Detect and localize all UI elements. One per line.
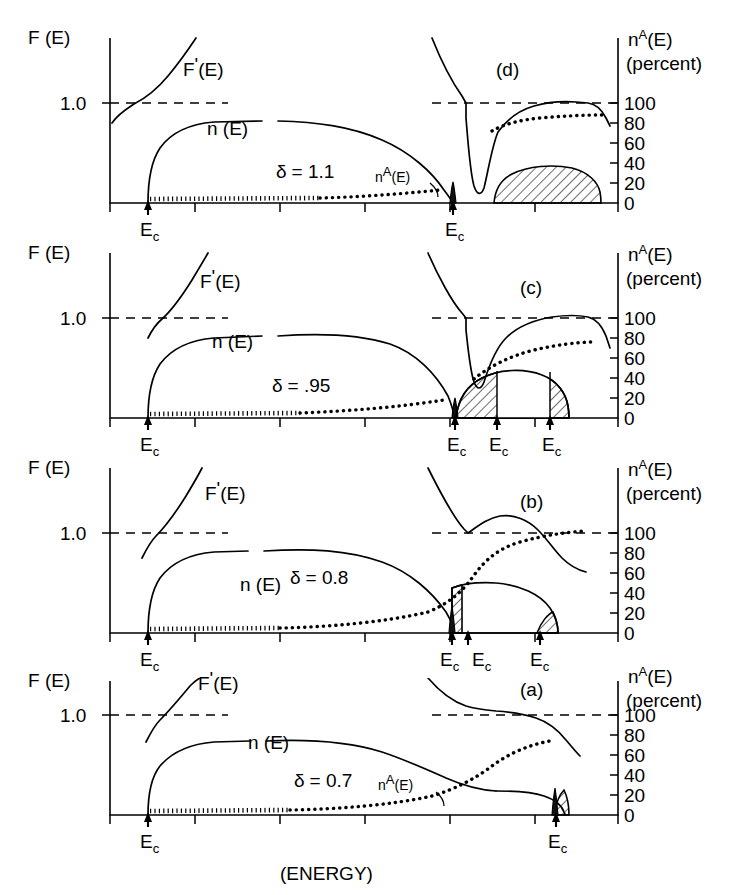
panel-d-nA-rise1 [320,190,440,198]
panel-a-x-ticks [110,815,618,824]
panel-c-nA-flat [150,413,300,414]
panel-d-nA-label: nA(E) [375,164,410,185]
svg-text:100: 100 [624,93,656,114]
panel-a-fprime-right [428,678,580,756]
panel-c-right-tick-labels: 100 80 60 40 20 0 [624,308,656,429]
panel-b-n-right [264,550,453,628]
panel-d-nA-right [492,115,602,131]
panel-a-ec-right: Ec [548,812,568,856]
panel-c-nA-rise1 [300,400,444,413]
panel-a-right-ticks [610,715,618,795]
panel-d-right-axis-units: (percent) [626,53,702,74]
panel-d-fprime-left [112,38,196,123]
panel-d-hatched-region [494,166,601,203]
panel-b-ec-left: Ec [140,630,160,674]
svg-text:40: 40 [624,583,645,604]
panel-d-nA-flat [150,198,320,199]
panel-a-fprime-label: F'(E) [198,668,239,694]
panel-d-tag: (d) [496,59,519,80]
panel-a-n-label: n (E) [248,732,289,753]
panel-d-x-ticks [110,203,618,212]
svg-text:0: 0 [624,408,635,429]
panel-c-fprime-left [148,253,208,338]
panel-a-left-tick-label: 1.0 [60,705,86,726]
svg-text:100: 100 [624,523,656,544]
panel-d-left-axis-title: F (E) [28,27,70,48]
svg-text:20: 20 [624,388,645,409]
panel-d-right-ticks [610,103,618,183]
panel-c-right-ticks [610,318,618,398]
x-axis-title: (ENERGY) [280,863,373,884]
panel-c-ec-left: Ec [140,415,160,459]
svg-text:100: 100 [624,308,656,329]
panel-d-ec-left: Ec [140,200,160,244]
panel-c: Ec Ec Ec Ec F (E) 1.0 F'(E) n (E) δ= .95… [28,242,702,459]
svg-text:60: 60 [624,563,645,584]
panel-d-right-tick-labels: 100 80 60 40 20 0 [624,93,656,214]
panel-d-spike [450,182,456,203]
panel-c-right-axis-title: nA(E) [628,242,673,265]
panel-c-n-label: n (E) [212,331,253,352]
panel-b-delta: δ= 0.8 [290,567,348,588]
svg-text:60: 60 [624,348,645,369]
panel-c-right-axis-units: (percent) [626,268,702,289]
panel-c-ec-right-1-label: Ec [447,434,467,459]
svg-text:40: 40 [624,153,645,174]
panel-b-ec-right-1-label: Ec [440,649,460,674]
panel-a-left-axis-title: F (E) [28,670,70,691]
panel-b-right-ticks [610,533,618,613]
svg-text:80: 80 [624,543,645,564]
panel-b-fprime-right [428,468,586,572]
panel-b-right-axis-title: nA(E) [628,457,673,480]
panel-b-ec-right-3: Ec [530,630,550,674]
svg-text:20: 20 [624,173,645,194]
panel-a-delta: δ= 0.7 [294,770,352,791]
svg-text:60: 60 [624,133,645,154]
panel-a-right-axis-title: nA(E) [628,664,673,687]
panel-d-fprime-label: F'(E) [183,54,224,80]
panel-d-ec-right-label: Ec [445,219,465,244]
panel-b-right-axis-units: (percent) [626,483,702,504]
panel-b-ec-right-1: Ec [440,630,460,674]
panel-a-ec-right-label: Ec [548,831,568,856]
svg-text:20: 20 [624,603,645,624]
panel-c-x-ticks [110,418,618,427]
panel-c-tag: (c) [520,277,542,298]
svg-text:100: 100 [624,705,656,726]
panel-b-ec-right-3-label: Ec [530,649,550,674]
panel-b-nA-flat [150,628,280,629]
panel-b-left-tick-label: 1.0 [60,523,86,544]
panel-a-right-tick-labels: 100 80 60 40 20 0 [624,705,656,826]
panel-a-nA-flat [150,810,290,811]
panel-a-nA-label: nA(E) [378,772,413,793]
panel-b-fprime-left [142,468,202,558]
panel-d-right-axis-title: nA(E) [628,27,673,50]
svg-text:80: 80 [624,328,645,349]
panel-c-ec-left-label: Ec [140,434,160,459]
panel-a-n-left [148,741,250,815]
panel-d: Ec Ec F (E) 1.0 F'(E) n (E) δ= 1.1 nA(E)… [28,27,702,244]
svg-text:0: 0 [624,623,635,644]
figure-svg: Ec Ec F (E) 1.0 F'(E) n (E) δ= 1.1 nA(E)… [0,0,739,895]
panel-c-left-tick-label: 1.0 [60,308,86,329]
panel-a: Ec Ec F (E) 1.0 F'(E) n (E) δ= 0.7 nA(E)… [28,664,702,856]
panel-a-spike [552,788,558,815]
panel-d-left-tick-label: 1.0 [60,93,86,114]
svg-text:80: 80 [624,725,645,746]
panel-a-fprime-left [146,678,200,742]
panel-d-ec-left-label: Ec [140,219,160,244]
panel-c-fprime-label: F'(E) [200,266,241,292]
panel-d-n-label: n (E) [207,118,248,139]
svg-text:20: 20 [624,785,645,806]
panel-b-n-label: n (E) [240,574,281,595]
panel-b-tag: (b) [520,491,543,512]
panel-c-ec-right-2-label: Ec [489,434,509,459]
panel-a-ec-left: Ec [140,812,160,856]
panel-b-ec-left-label: Ec [140,649,160,674]
figure-root: Ec Ec F (E) 1.0 F'(E) n (E) δ= 1.1 nA(E)… [0,0,739,895]
panel-c-delta: δ= .95 [272,375,330,396]
panel-a-tag: (a) [520,679,543,700]
panel-b-left-axis-title: F (E) [28,457,70,478]
svg-text:0: 0 [624,193,635,214]
panel-b-right-tick-labels: 100 80 60 40 20 0 [624,523,656,644]
